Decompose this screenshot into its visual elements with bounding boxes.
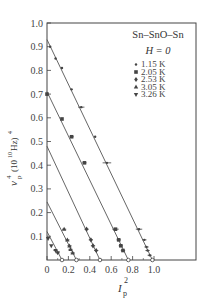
marker-dot: [149, 254, 151, 256]
open-circle-endpoint: [60, 258, 64, 262]
chart-subtitle: H = 0: [144, 45, 171, 56]
marker-dot: [49, 46, 51, 48]
marker-diamond: [85, 227, 89, 232]
marker-triangle-up: [68, 247, 72, 251]
marker-square: [114, 227, 118, 231]
fit-line: [47, 232, 62, 260]
y-tick-label: 0.5: [31, 136, 44, 147]
open-circle-endpoint: [127, 258, 131, 262]
marker-square: [60, 117, 64, 121]
svg-text:10: 10: [7, 152, 13, 158]
y-tick-label: 0.4: [31, 160, 44, 171]
marker-triangle-down: [49, 244, 53, 248]
open-circle-endpoint: [75, 258, 79, 262]
y-axis-label: ν 4 p (10 10 Hz) 4: [5, 131, 23, 186]
legend-label: 3.26 K: [141, 89, 166, 99]
marker-square: [119, 244, 123, 248]
legend-item: 3.26 K: [134, 89, 166, 99]
y-tick-label: 0.3: [31, 183, 44, 194]
marker-square: [83, 161, 87, 165]
fit-line: [47, 202, 76, 260]
x-axis-label: I 2 p: [117, 276, 128, 298]
y-tick-label: 0.9: [31, 41, 44, 52]
svg-text:p: p: [123, 289, 127, 298]
x-tick-label: 0: [45, 264, 50, 275]
marker-triangle-up: [62, 227, 66, 231]
marker-dot: [146, 249, 148, 251]
marker-dot: [70, 88, 72, 90]
x-tick-label: 0.2: [62, 264, 75, 275]
marker-dot: [94, 136, 96, 138]
chart-title: Sn–SnO–Sn: [132, 29, 184, 40]
marker-dot: [143, 239, 145, 241]
marker-dot: [54, 57, 56, 59]
marker-triangle-down: [134, 93, 138, 97]
svg-text:p: p: [15, 175, 23, 179]
marker-square: [70, 135, 74, 139]
marker-square: [45, 92, 49, 96]
svg-text:(10: (10: [9, 160, 19, 172]
marker-dot: [138, 228, 140, 230]
open-circle-endpoint: [151, 258, 155, 262]
x-tick-label: 0.4: [84, 264, 97, 275]
fit-line: [47, 92, 128, 260]
x-tick-label: 0.8: [126, 264, 139, 275]
fit-line: [47, 146, 100, 260]
svg-text:Hz): Hz): [9, 138, 19, 152]
marker-diamond: [134, 77, 138, 82]
marker-dot: [145, 246, 147, 248]
marker-dot: [135, 63, 137, 65]
legend: 1.15 K2.05 K2.53 K3.05 K3.26 K: [134, 59, 166, 99]
marker-dot: [61, 67, 63, 69]
y-tick-label: 0.1: [31, 231, 44, 242]
y-tick-label: 0.6: [31, 112, 44, 123]
x-tick-label: 1.0: [148, 264, 161, 275]
open-circle-endpoint: [98, 258, 102, 262]
marker-square: [134, 70, 138, 74]
chart-plot: 00.20.40.60.81.00.10.20.30.40.50.60.70.8…: [0, 0, 205, 303]
x-tick-label: 0.6: [105, 264, 118, 275]
svg-text:2: 2: [124, 276, 128, 285]
marker-square: [117, 238, 121, 242]
svg-text:4: 4: [7, 131, 13, 134]
marker-triangle-up: [134, 85, 138, 89]
plot-frame: [47, 23, 196, 260]
svg-text:ν: ν: [7, 181, 19, 186]
marker-dot: [106, 162, 108, 164]
y-tick-label: 0.2: [31, 207, 44, 218]
y-tick-label: 1.0: [31, 18, 44, 29]
svg-text:4: 4: [5, 175, 13, 179]
marker-dot: [80, 106, 82, 108]
y-tick-label: 0.8: [31, 65, 44, 76]
data-points: [45, 46, 154, 262]
plot-border: [47, 23, 196, 260]
y-tick-label: 0.7: [31, 89, 44, 100]
marker-square: [121, 249, 125, 253]
